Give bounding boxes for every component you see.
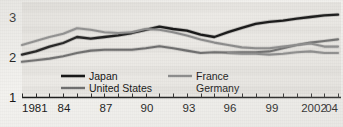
x-tick-label-90: 90 [141, 102, 154, 114]
x-tick-label-93: 93 [183, 102, 196, 114]
x-tick-label-99: 99 [266, 102, 279, 114]
y-axis-label-1: 1 [9, 90, 16, 105]
legend-label-germany: Germany [196, 82, 240, 94]
line-chart: 3 2 1 1981 84 87 90 93 96 99 2002 04 Jap… [0, 0, 343, 127]
legend-label-japan: Japan [89, 70, 118, 82]
x-tick-label-96: 96 [224, 102, 237, 114]
legend-label-united-states: United States [89, 82, 152, 94]
x-tick-label-87: 87 [100, 102, 113, 114]
legend-label-france: France [196, 70, 229, 82]
x-tick-label-84: 84 [58, 102, 71, 114]
x-tick-label-1981: 1981 [22, 102, 48, 114]
chart-canvas: 3 2 1 1981 84 87 90 93 96 99 2002 04 Jap… [0, 0, 343, 127]
y-axis-label-3: 3 [9, 10, 16, 25]
y-axis-label-2: 2 [9, 50, 16, 65]
x-tick-label-04: 04 [325, 102, 338, 114]
x-tick-label-2002: 2002 [301, 102, 327, 114]
